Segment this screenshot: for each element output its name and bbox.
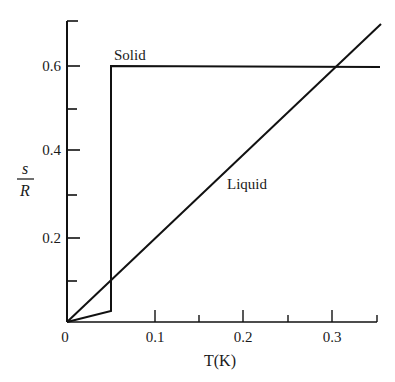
solid-label: Solid — [114, 47, 146, 63]
entropy-chart: 0.6 0.4 0.2 0 0.1 0.2 0.3 s R T(K) Solid… — [0, 0, 395, 382]
liquid-series-line — [67, 24, 381, 322]
y-tick-label-0.4: 0.4 — [42, 142, 61, 158]
solid-series-line — [67, 66, 380, 322]
y-tick-label-0.2: 0.2 — [42, 230, 61, 246]
y-axis-title-numerator: s — [22, 160, 28, 177]
liquid-label: Liquid — [227, 176, 267, 192]
x-ticks — [155, 310, 377, 322]
x-tick-label-0: 0 — [61, 329, 69, 345]
x-tick-label-0.1: 0.1 — [146, 329, 165, 345]
y-ticks — [67, 66, 80, 281]
y-axis-title-denominator: R — [19, 182, 30, 199]
x-tick-label-0.3: 0.3 — [323, 329, 342, 345]
x-axis-title: T(K) — [204, 352, 236, 370]
x-tick-label-0.2: 0.2 — [234, 329, 253, 345]
y-tick-label-0.6: 0.6 — [42, 58, 61, 74]
